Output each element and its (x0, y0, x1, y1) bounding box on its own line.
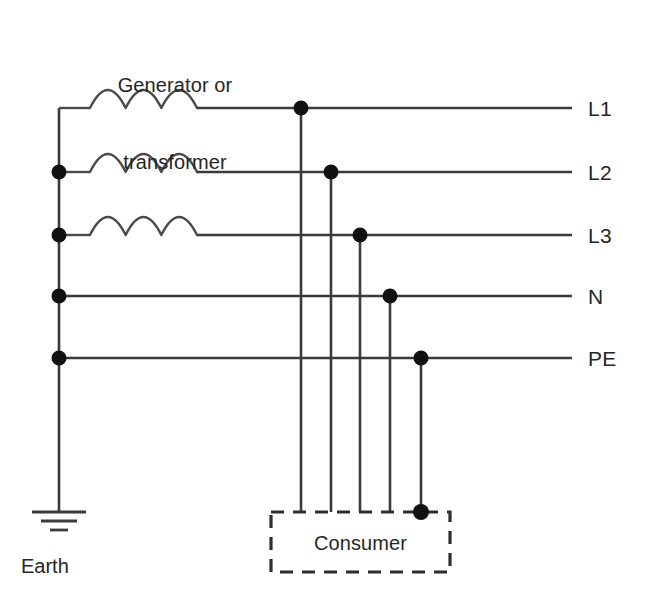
pe-junction-dot (414, 351, 429, 366)
rail-label-l1: L1 (588, 96, 612, 123)
rail-group-l3 (52, 217, 573, 512)
n-source-node-dot (52, 289, 67, 304)
source-title-line-1: Generator or (78, 73, 272, 99)
rail-group-pe (52, 351, 573, 513)
wiring-diagram: Generator or transformer L1 L2 L3 N PE E… (0, 0, 650, 612)
earth-symbol (32, 512, 86, 530)
rail-label-n: N (588, 284, 603, 311)
consumer-label: Consumer (271, 531, 450, 557)
l3-junction-dot (353, 228, 368, 243)
rail-group-n (52, 289, 573, 513)
n-junction-dot (383, 289, 398, 304)
rail-label-l2: L2 (588, 160, 612, 187)
l3-source-node-dot (52, 228, 67, 243)
pe-source-node-dot (52, 351, 67, 366)
rail-label-pe: PE (588, 346, 617, 373)
l2-junction-dot (324, 165, 339, 180)
rail-label-l3: L3 (588, 223, 612, 250)
l1-junction-dot (294, 101, 309, 116)
consumer-pe-terminal-dot (413, 504, 429, 520)
source-title-line-2: transformer (78, 150, 272, 176)
earth-label: Earth (21, 554, 69, 580)
source-title: Generator or transformer (78, 22, 272, 227)
l2-source-node-dot (52, 165, 67, 180)
